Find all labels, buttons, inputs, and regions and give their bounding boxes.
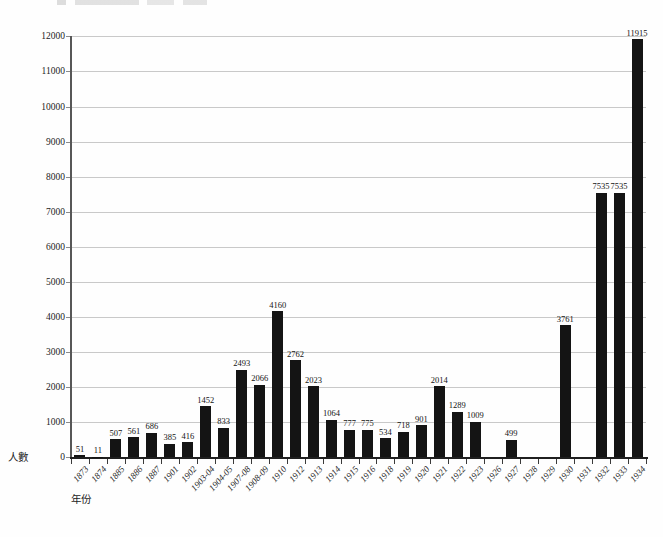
bar — [182, 442, 193, 457]
x-tick-label: 1931 — [574, 464, 593, 484]
x-axis-tick — [430, 459, 431, 464]
x-tick-label: 1901 — [161, 464, 180, 484]
bar — [272, 311, 283, 457]
bar — [164, 444, 175, 457]
x-axis-tick — [448, 459, 449, 464]
bar — [416, 425, 427, 457]
x-axis-tick — [628, 459, 629, 464]
bar — [74, 455, 85, 457]
bar — [632, 39, 643, 457]
gridline — [71, 142, 646, 143]
y-tick-label: 11000 — [42, 66, 65, 76]
x-tick-label: 1928 — [520, 464, 539, 484]
bar — [614, 193, 625, 457]
bar-value-label: 2014 — [417, 375, 461, 385]
x-axis-tick — [89, 459, 90, 464]
y-tick-label: 8000 — [46, 172, 65, 182]
y-tick-label: 9000 — [46, 137, 65, 147]
x-tick-label: 1912 — [287, 464, 306, 484]
x-axis-tick — [592, 459, 593, 464]
x-tick-label: 1926 — [484, 464, 503, 484]
x-tick-label: 1919 — [394, 464, 413, 484]
x-axis-tick — [71, 459, 72, 464]
x-tick-label: 1921 — [430, 464, 449, 484]
bar — [398, 432, 409, 457]
x-tick-label: 1927 — [502, 464, 521, 484]
bar — [596, 193, 607, 457]
bar-value-label: 1009 — [453, 410, 497, 420]
x-tick-label: 1933 — [610, 464, 629, 484]
bar-value-label: 1064 — [310, 408, 354, 418]
x-tick-label: 1913 — [305, 464, 324, 484]
cropped-text-fragment — [57, 0, 207, 5]
bar-value-label: 2493 — [220, 358, 264, 368]
x-axis-tick — [287, 459, 288, 464]
gridline — [71, 107, 646, 108]
x-axis-tick — [305, 459, 306, 464]
y-tick-label: 7000 — [46, 207, 65, 217]
y-tick-label: 1000 — [46, 417, 65, 427]
x-tick-label: 1910 — [269, 464, 288, 484]
bar-value-label: 4160 — [256, 300, 300, 310]
bar-value-label: 11915 — [615, 28, 659, 38]
gridline — [71, 247, 646, 248]
gridline — [71, 71, 646, 72]
gridline — [71, 36, 646, 37]
x-tick-label: 1914 — [323, 464, 342, 484]
x-tick-label: 1922 — [448, 464, 467, 484]
x-axis-tick — [538, 459, 539, 464]
bar-value-label: 499 — [489, 428, 533, 438]
x-tick-label: 1916 — [358, 464, 377, 484]
x-tick-label: 1918 — [376, 464, 395, 484]
bar-value-label: 1289 — [435, 400, 479, 410]
x-axis-tick — [412, 459, 413, 464]
x-axis-tick — [269, 459, 270, 464]
bar — [470, 422, 481, 457]
x-tick-label: 1920 — [412, 464, 431, 484]
x-axis-tick — [323, 459, 324, 464]
y-tick-label: 4000 — [46, 312, 65, 322]
y-tick-label: 2000 — [46, 382, 65, 392]
bar — [380, 438, 391, 457]
x-axis-tick — [107, 459, 108, 464]
x-axis-tick — [376, 459, 377, 464]
x-axis-tick — [161, 459, 162, 464]
bar — [254, 385, 265, 457]
x-axis-tick — [466, 459, 467, 464]
bar — [110, 439, 121, 457]
y-tick-label: 5000 — [46, 277, 65, 287]
x-axis-tick — [197, 459, 198, 464]
x-tick-label: 1886 — [125, 464, 144, 484]
y-tick-label: 10000 — [41, 102, 65, 112]
x-tick-label: 1929 — [538, 464, 557, 484]
x-axis-tick — [610, 459, 611, 464]
gridline — [71, 282, 646, 283]
x-tick-label: 1887 — [143, 464, 162, 484]
x-axis-tick — [359, 459, 360, 464]
y-tick-label: 6000 — [46, 242, 65, 252]
x-tick-label: 1934 — [628, 464, 647, 484]
x-axis-tick — [520, 459, 521, 464]
bar — [506, 440, 517, 457]
bar-value-label: 2023 — [292, 375, 336, 385]
bar — [218, 428, 229, 457]
x-axis-tick — [556, 459, 557, 464]
scanned-bar-chart-page: 0100020003000400050006000700080009000100… — [0, 0, 663, 537]
bar — [434, 386, 445, 457]
x-tick-label: 1923 — [466, 464, 485, 484]
x-axis-tick — [646, 459, 647, 464]
gridline — [71, 212, 646, 213]
x-tick-label: 1932 — [592, 464, 611, 484]
x-axis-tick — [574, 459, 575, 464]
x-tick-label: 1930 — [556, 464, 575, 484]
x-axis-tick — [484, 459, 485, 464]
gridline — [71, 177, 646, 178]
y-tick-label: 3000 — [46, 347, 65, 357]
bar-value-label: 3761 — [543, 314, 587, 324]
x-axis-tick — [502, 459, 503, 464]
x-tick-label: 1874 — [89, 464, 108, 484]
bar — [308, 386, 319, 457]
y-tick-label: 12000 — [41, 31, 65, 41]
bar-value-label: 1452 — [184, 395, 228, 405]
x-axis-tick — [215, 459, 216, 464]
